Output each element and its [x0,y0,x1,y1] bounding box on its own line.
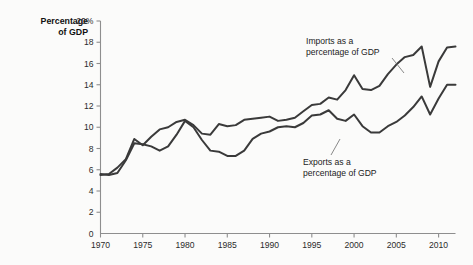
series-lines [101,47,456,176]
y-tick-label: 14 [84,80,94,90]
x-tick-label: 1985 [218,240,237,250]
exports-label-line2: percentage of GDP [303,168,377,178]
y-tick-label: 0 [89,229,94,239]
x-tick-label: 1970 [91,240,110,250]
y-tick-label: 18 [84,37,94,47]
y-axis-ticks: 02468101214161820% [76,16,100,239]
exports-label-line1: Exports as a [303,157,351,167]
x-axis-ticks: 197019751980198519901995200020052010 [91,234,448,250]
y-axis-title-line2: of GDP [58,27,88,37]
line-chart: Percentage of GDP 02468101214161820% 197… [0,0,473,265]
x-tick-label: 2005 [387,240,406,250]
y-tick-label: 2 [89,207,94,217]
x-tick-label: 1980 [175,240,194,250]
y-tick-label: 16 [84,59,94,69]
x-tick-label: 2000 [345,240,364,250]
y-tick-label: 8 [89,144,94,154]
y-tick-label: 4 [89,186,94,196]
imports-label-line2: percentage of GDP [306,47,380,57]
y-tick-label: 10 [84,122,94,132]
x-tick-label: 1995 [302,240,321,250]
series-line-imports [101,47,456,176]
imports-label-line1: Imports as a [306,36,354,46]
y-tick-label: 6 [89,165,94,175]
exports-annotation: Exports as a percentage of GDP [303,139,377,178]
exports-leader-line [331,139,340,155]
series-line-exports [101,85,456,175]
x-tick-label: 1975 [133,240,152,250]
imports-annotation: Imports as a percentage of GDP [306,36,404,73]
y-tick-label: 20% [76,16,94,26]
y-tick-label: 12 [84,101,94,111]
x-tick-label: 2010 [429,240,448,250]
x-tick-label: 1990 [260,240,279,250]
chart-container: Percentage of GDP 02468101214161820% 197… [0,0,473,265]
